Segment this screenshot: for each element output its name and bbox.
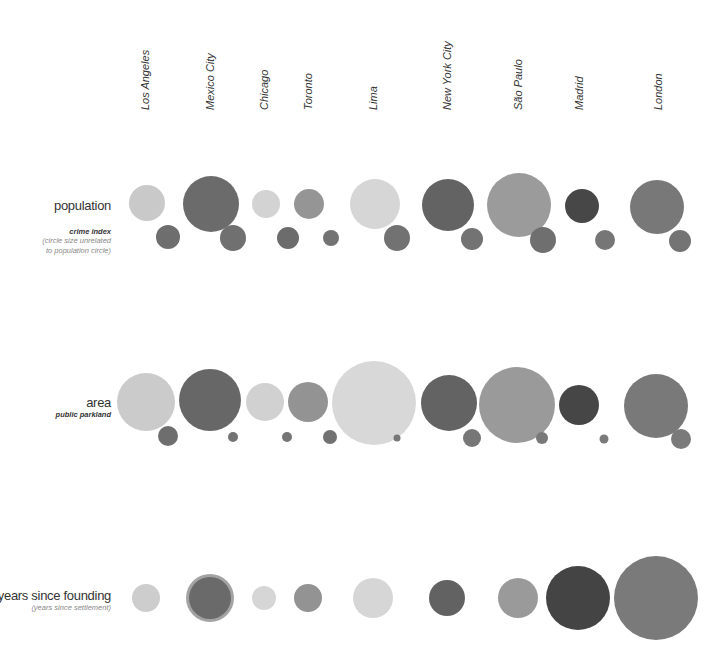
- area-circle: [332, 361, 416, 445]
- years-circle: [498, 578, 538, 618]
- years-circle: [189, 577, 231, 619]
- population-secondary-circle: [384, 225, 410, 251]
- years-circle: [429, 580, 465, 616]
- area-secondary-circle: [463, 429, 481, 447]
- population-secondary-circle: [461, 228, 483, 250]
- population-secondary-circle: [156, 225, 180, 249]
- population-circle: [252, 190, 280, 218]
- population-circle: [350, 179, 400, 229]
- area-secondary-circle: [600, 435, 609, 444]
- years-circle: [132, 584, 160, 612]
- area-circle: [559, 385, 599, 425]
- population-secondary-circle: [220, 225, 246, 251]
- area-circle: [179, 369, 241, 431]
- population-secondary-circle: [595, 230, 615, 250]
- area-secondary-circle: [158, 426, 178, 446]
- population-circle: [630, 180, 684, 234]
- area-secondary-circle: [536, 432, 548, 444]
- area-circle: [479, 367, 555, 443]
- population-circle: [129, 185, 165, 221]
- population-circle: [422, 179, 474, 231]
- area-secondary-circle: [228, 432, 238, 442]
- years-circle: [294, 584, 322, 612]
- population-secondary-circle: [669, 230, 691, 252]
- years-circle: [252, 586, 276, 610]
- years-circle: [353, 578, 393, 618]
- area-secondary-circle: [282, 432, 292, 442]
- area-circle: [288, 382, 328, 422]
- population-circle: [183, 176, 239, 232]
- population-secondary-circle: [277, 227, 299, 249]
- area-secondary-circle: [394, 435, 401, 442]
- population-circle: [565, 189, 599, 223]
- years-circle: [614, 556, 698, 640]
- bubble-chart: [0, 0, 721, 662]
- area-circle: [117, 373, 175, 431]
- area-circle: [246, 383, 284, 421]
- area-secondary-circle: [671, 429, 691, 449]
- area-circle: [624, 374, 688, 438]
- population-secondary-circle: [323, 230, 339, 246]
- population-circle: [294, 189, 324, 219]
- years-circle: [546, 566, 610, 630]
- area-secondary-circle: [323, 430, 337, 444]
- area-circle: [421, 375, 477, 431]
- population-secondary-circle: [530, 227, 556, 253]
